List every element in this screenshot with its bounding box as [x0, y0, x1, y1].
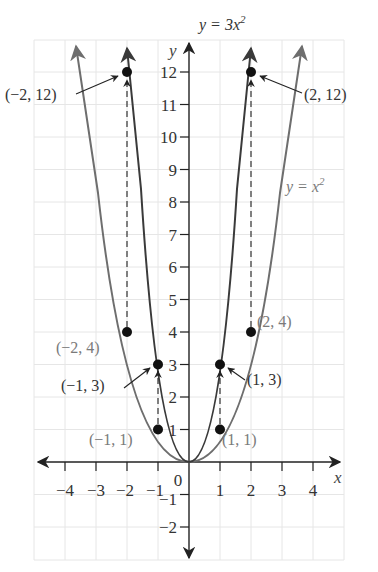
- x-tick-label: 4: [309, 481, 318, 500]
- label-1-3: (1, 3): [247, 371, 282, 389]
- x-tick-label: 3: [278, 481, 287, 500]
- y-tick-label: −2: [159, 518, 177, 537]
- origin-label: 0: [174, 471, 183, 490]
- y-tick-label: 9: [169, 161, 178, 180]
- x-tick-label: −4: [56, 481, 75, 500]
- label-neg2-4: (−2, 4): [56, 339, 100, 357]
- axes: [38, 43, 340, 558]
- label-2-12: (2, 12): [304, 86, 347, 104]
- x-tick-label: −3: [87, 481, 105, 500]
- point-2-12: [246, 67, 256, 77]
- x-axis-label: x: [333, 468, 342, 487]
- y-tick-label: 7: [169, 226, 178, 245]
- label-neg1-3: (−1, 3): [61, 377, 105, 395]
- point-neg1-1: [153, 425, 163, 435]
- x-tick-label: 1: [216, 481, 225, 500]
- y-tick-label: 12: [160, 63, 177, 82]
- equation-label-3x-squared: y = 3x2: [197, 13, 246, 34]
- label-neg1-1: (−1, 1): [89, 431, 133, 449]
- label-1-1: (1, 1): [222, 431, 257, 449]
- point-2-4: [246, 327, 256, 337]
- y-tick-label: 6: [169, 258, 178, 277]
- y-axis-label: y: [167, 41, 177, 60]
- y-tick-label: 2: [169, 388, 178, 407]
- y-tick-label: −1: [159, 490, 177, 509]
- point-neg2-4: [122, 327, 132, 337]
- equation-label-x-squared: y = x2: [284, 175, 325, 196]
- y-tick-label: 8: [169, 193, 178, 212]
- y-tick-label: 5: [169, 291, 178, 310]
- y-tick-label: 3: [169, 356, 178, 375]
- y-tick-label: 10: [160, 128, 177, 147]
- x-tick-label: −2: [116, 481, 134, 500]
- x-tick-labels: −4 −3 −2 −1 1 2 3 4: [56, 481, 318, 500]
- label-neg2-12: (−2, 12): [5, 86, 57, 104]
- x-tick-label: 2: [247, 481, 256, 500]
- point-neg2-12: [122, 67, 132, 77]
- point-1-3: [215, 360, 225, 370]
- point-neg1-3: [153, 360, 163, 370]
- y-tick-label: 4: [169, 323, 178, 342]
- parabola-chart: −4 −3 −2 −1 1 2 3 4 12 11 10 9 8 7 6 5 4…: [0, 0, 378, 572]
- label-2-4: (2, 4): [257, 313, 292, 331]
- y-tick-label: 11: [161, 96, 177, 115]
